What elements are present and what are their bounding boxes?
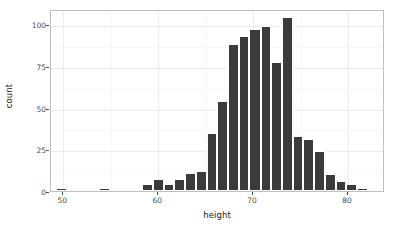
histogram-bar	[336, 181, 346, 191]
y-axis-tick-mark	[46, 25, 49, 26]
y-axis-tick-mark	[46, 109, 49, 110]
histogram-figure: count 0255075100 50607080 height	[0, 0, 398, 231]
histogram-bar	[282, 17, 293, 191]
histogram-bar	[142, 184, 152, 191]
histogram-bars	[51, 11, 383, 191]
histogram-bar	[207, 133, 217, 191]
histogram-bar	[325, 174, 335, 191]
x-axis-tick-label: 80	[332, 196, 362, 205]
histogram-bar	[346, 184, 357, 191]
histogram-bar	[249, 29, 260, 191]
histogram-bar	[314, 151, 325, 191]
histogram-bar	[375, 189, 384, 191]
x-axis-tick-mark	[62, 192, 63, 195]
histogram-bar	[239, 36, 249, 191]
x-axis-tick-mark	[347, 192, 348, 195]
histogram-bar	[228, 44, 238, 191]
histogram-bar	[303, 139, 313, 191]
x-axis-tick-mark	[252, 192, 253, 195]
histogram-bar	[293, 136, 303, 191]
histogram-bar	[99, 188, 109, 191]
histogram-bar	[153, 179, 164, 191]
histogram-bar	[217, 101, 228, 191]
histogram-bar	[174, 179, 184, 191]
y-axis-tick-mark	[46, 150, 49, 151]
x-axis-title: height	[50, 210, 384, 220]
y-axis-tick-mark	[46, 192, 49, 193]
histogram-bar	[357, 188, 367, 191]
x-axis-tick-mark	[157, 192, 158, 195]
y-axis-tick-mark	[46, 67, 49, 68]
histogram-bar	[164, 184, 174, 191]
histogram-bar	[261, 26, 271, 191]
x-axis-tick-label: 50	[47, 196, 77, 205]
x-axis-tick-label: 70	[237, 196, 267, 205]
x-axis-tick-label: 60	[142, 196, 172, 205]
histogram-bar	[196, 171, 206, 191]
plot-panel	[50, 10, 384, 192]
histogram-bar	[56, 188, 67, 191]
histogram-bar	[185, 173, 196, 191]
histogram-bar	[132, 189, 142, 191]
histogram-bar	[271, 62, 281, 191]
